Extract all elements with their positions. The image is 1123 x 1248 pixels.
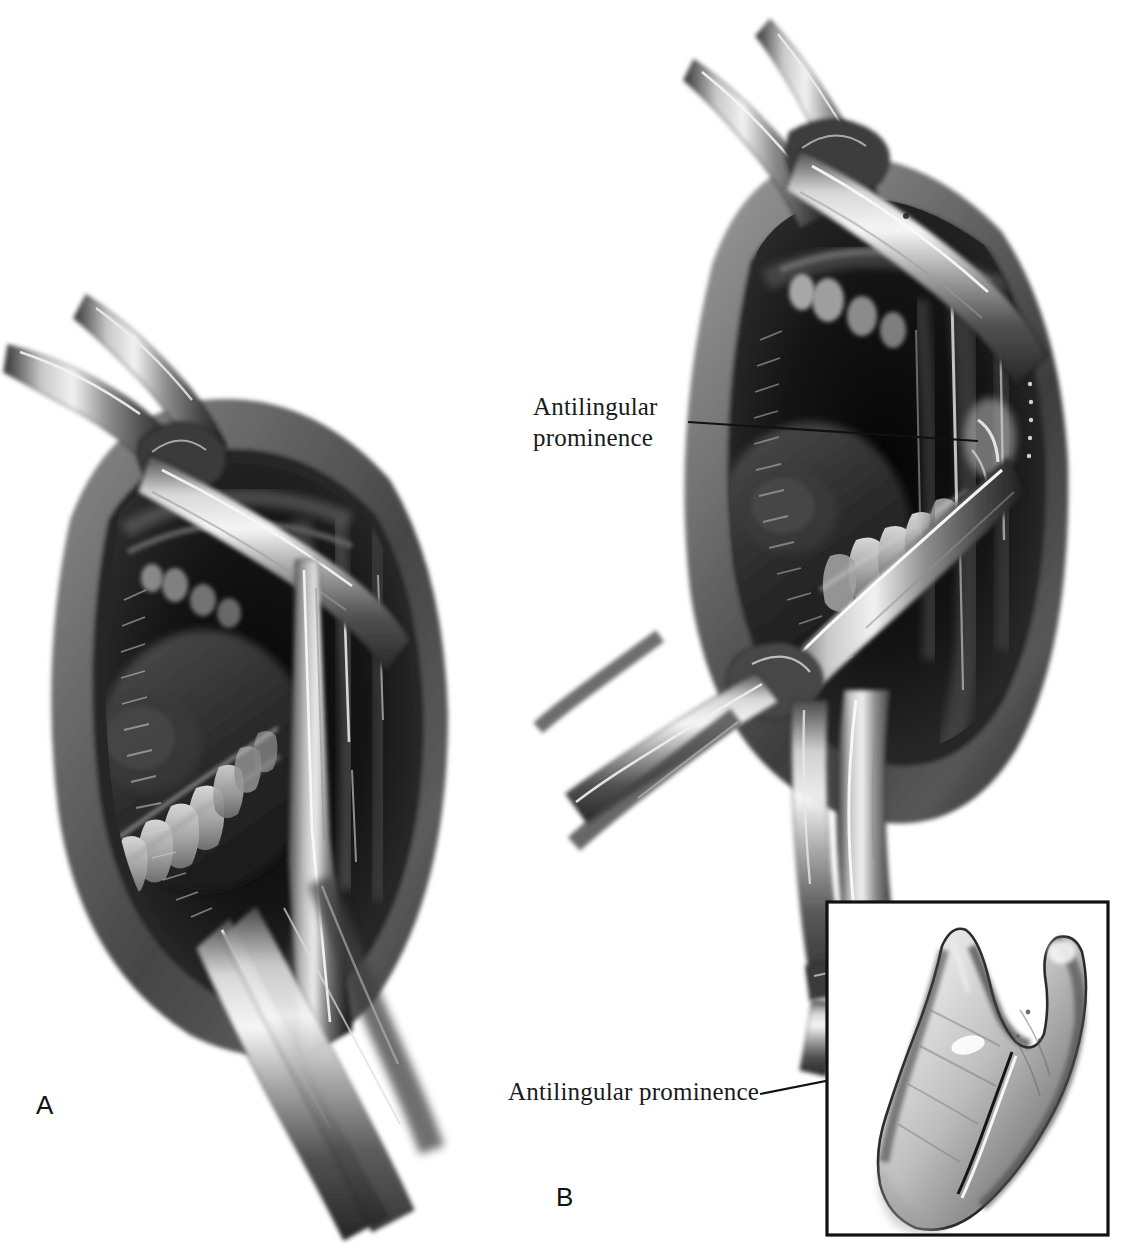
panel-letter-b: B xyxy=(556,1182,573,1213)
panel-letter-a: A xyxy=(36,1090,53,1121)
panel-a-illustration xyxy=(4,295,448,1240)
ramus-bone-inset xyxy=(827,902,1108,1235)
annotation-label-antilingular-prominence-inset: Antilingular prominence xyxy=(508,1077,759,1108)
illustration-artwork xyxy=(0,0,1123,1248)
annotation-label-antilingular-prominence-panel-b: Antilingular prominence xyxy=(533,392,658,453)
figure-canvas: Antilingular prominence Antilingular pro… xyxy=(0,0,1123,1248)
inset-condyle-highlight xyxy=(1048,940,1076,964)
